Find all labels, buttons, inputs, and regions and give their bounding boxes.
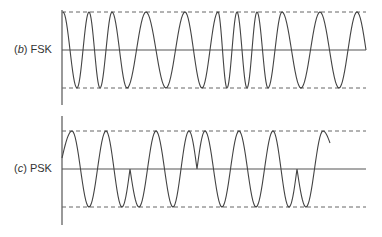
psk-panel	[62, 116, 366, 225]
modulation-diagram	[0, 0, 382, 237]
fsk-panel	[62, 10, 366, 105]
